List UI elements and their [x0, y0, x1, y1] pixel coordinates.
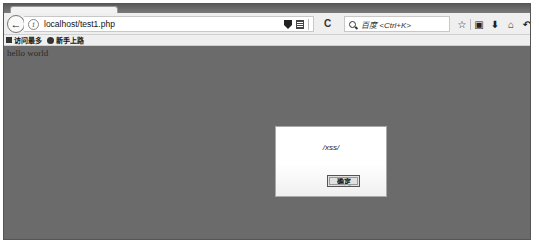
bookmark-label: 新手上路: [56, 35, 84, 45]
info-icon[interactable]: i: [28, 19, 39, 30]
shield-icon[interactable]: [284, 20, 292, 29]
url-bar[interactable]: i localhost/test1.php: [24, 16, 314, 32]
undo-icon[interactable]: ↶: [519, 17, 531, 31]
back-button[interactable]: ←: [7, 15, 25, 33]
reader-view-icon[interactable]: [296, 20, 304, 29]
alert-footer: 确定: [276, 164, 386, 196]
search-input[interactable]: 百度 <Ctrl+K>: [344, 16, 450, 32]
download-icon[interactable]: ⬇: [487, 17, 503, 31]
divider: [308, 19, 309, 30]
alert-message: /xss/: [276, 143, 386, 152]
globe-icon: [47, 37, 54, 44]
reload-icon[interactable]: C: [324, 18, 331, 29]
bookmark-label: 访问最多: [14, 35, 42, 45]
alert-dialog: /xss/ 确定: [275, 126, 387, 197]
browser-window: ← i localhost/test1.php C 百度 <Ctrl+K> ☆ …: [3, 3, 531, 240]
search-placeholder: 百度 <Ctrl+K>: [361, 19, 411, 30]
clipboard-icon[interactable]: ▣: [471, 17, 487, 31]
url-actions: [284, 19, 309, 30]
tab-strip: [4, 4, 530, 13]
bookmarks-bar: 访问最多 新手上路: [4, 35, 530, 46]
page-content-overlay: hello world /xss/ 确定: [4, 46, 530, 240]
bookmark-star-icon[interactable]: ☆: [454, 17, 470, 31]
bookmark-getting-started[interactable]: 新手上路: [47, 35, 84, 45]
ok-button[interactable]: 确定: [327, 175, 360, 187]
bookmark-most-visited[interactable]: 访问最多: [6, 35, 42, 45]
search-icon: [349, 21, 356, 28]
page-body-text: hello world: [7, 48, 48, 58]
back-arrow-icon: ←: [11, 19, 22, 30]
navigation-toolbar: ← i localhost/test1.php C 百度 <Ctrl+K> ☆ …: [4, 13, 530, 35]
home-icon[interactable]: ⌂: [503, 17, 519, 31]
folder-icon: [6, 37, 12, 43]
toolbar-icons: ☆ ▣ ⬇ ⌂ ↶: [454, 17, 531, 31]
url-text[interactable]: localhost/test1.php: [44, 19, 115, 29]
